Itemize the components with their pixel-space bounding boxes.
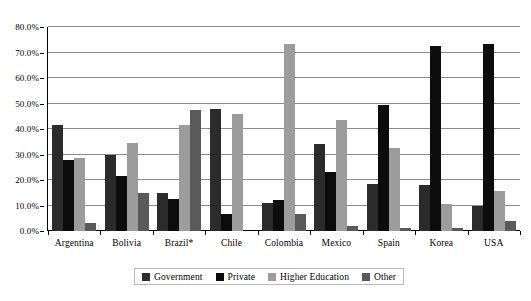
y-tick-label: 40.0% bbox=[15, 125, 39, 134]
bar bbox=[419, 185, 430, 231]
bar bbox=[284, 44, 295, 231]
bar-chart: 0.0%10.0%20.0%30.0%40.0%50.0%60.0%70.0%8… bbox=[0, 0, 531, 301]
bar-group bbox=[205, 27, 257, 231]
y-tick-label: 0.0% bbox=[20, 227, 39, 236]
x-axis-label: Spain bbox=[363, 236, 415, 252]
bar bbox=[105, 155, 116, 232]
bar bbox=[138, 193, 149, 231]
bar bbox=[430, 46, 441, 231]
y-axis: 0.0%10.0%20.0%30.0%40.0%50.0%60.0%70.0%8… bbox=[0, 27, 44, 231]
bar bbox=[472, 206, 483, 232]
y-tick-label: 30.0% bbox=[15, 150, 39, 159]
y-tick-label: 20.0% bbox=[15, 176, 39, 185]
x-tick-mark bbox=[468, 231, 469, 235]
y-tick-mark bbox=[40, 53, 44, 54]
bar bbox=[483, 44, 494, 231]
legend-swatch-icon bbox=[142, 273, 150, 281]
y-tick-label: 70.0% bbox=[15, 48, 39, 57]
legend-item: Higher Education bbox=[268, 272, 349, 282]
bar-group bbox=[153, 27, 205, 231]
bar bbox=[273, 200, 284, 231]
x-tick-mark bbox=[153, 231, 154, 235]
x-tick-mark bbox=[48, 231, 49, 235]
bar bbox=[221, 214, 232, 231]
y-tick-label: 60.0% bbox=[15, 74, 39, 83]
bar bbox=[314, 144, 325, 231]
legend-label: Private bbox=[228, 272, 256, 282]
legend-item: Other bbox=[362, 272, 396, 282]
bar bbox=[74, 158, 85, 231]
x-tick-mark bbox=[520, 231, 521, 235]
x-axis-label: Bolivia bbox=[100, 236, 152, 252]
y-tick-label: 50.0% bbox=[15, 99, 39, 108]
y-tick-label: 80.0% bbox=[15, 23, 39, 32]
legend-swatch-icon bbox=[216, 273, 224, 281]
legend-label: Other bbox=[374, 272, 396, 282]
bar-group bbox=[468, 27, 520, 231]
bar bbox=[262, 203, 273, 231]
legend-item: Government bbox=[142, 272, 203, 282]
bar bbox=[52, 125, 63, 231]
y-tick-mark bbox=[40, 129, 44, 130]
x-axis-labels: ArgentinaBoliviaBrazil*ChileColombiaMexi… bbox=[48, 236, 520, 252]
x-axis-label: Brazil* bbox=[153, 236, 205, 252]
bar bbox=[367, 184, 378, 231]
y-tick-mark bbox=[40, 78, 44, 79]
bar bbox=[441, 204, 452, 231]
bar bbox=[179, 125, 190, 231]
bar bbox=[336, 120, 347, 231]
bar bbox=[127, 143, 138, 231]
bars-layer bbox=[48, 27, 520, 231]
y-tick-label: 10.0% bbox=[15, 201, 39, 210]
bar-group bbox=[100, 27, 152, 231]
chart-legend: GovernmentPrivateHigher EducationOther bbox=[134, 268, 404, 285]
y-tick-mark bbox=[40, 27, 44, 28]
legend-label: Government bbox=[154, 272, 203, 282]
bar bbox=[295, 214, 306, 231]
x-axis-label: Argentina bbox=[48, 236, 100, 252]
bar bbox=[190, 110, 201, 231]
x-axis-label: Chile bbox=[205, 236, 257, 252]
x-tick-mark bbox=[310, 231, 311, 235]
legend-swatch-icon bbox=[362, 273, 370, 281]
bar bbox=[157, 193, 168, 231]
bar bbox=[325, 172, 336, 231]
bar bbox=[210, 109, 221, 231]
x-tick-mark bbox=[415, 231, 416, 235]
legend-swatch-icon bbox=[268, 273, 276, 281]
legend-label: Higher Education bbox=[280, 272, 349, 282]
bar bbox=[116, 176, 127, 231]
x-axis-label: USA bbox=[468, 236, 520, 252]
x-tick-mark bbox=[100, 231, 101, 235]
bar-group bbox=[363, 27, 415, 231]
bar bbox=[85, 223, 96, 231]
y-tick-mark bbox=[40, 206, 44, 207]
x-axis-label: Korea bbox=[415, 236, 467, 252]
y-tick-mark bbox=[40, 104, 44, 105]
bar bbox=[232, 114, 243, 231]
legend-item: Private bbox=[216, 272, 256, 282]
bar bbox=[63, 160, 74, 231]
bar bbox=[505, 221, 516, 231]
bar-group bbox=[415, 27, 467, 231]
bar-group bbox=[48, 27, 100, 231]
y-tick-mark bbox=[40, 231, 44, 232]
y-tick-mark bbox=[40, 180, 44, 181]
x-axis-label: Colombia bbox=[258, 236, 310, 252]
x-axis-label: Mexico bbox=[310, 236, 362, 252]
bar bbox=[494, 191, 505, 231]
y-tick-mark bbox=[40, 155, 44, 156]
x-tick-mark bbox=[205, 231, 206, 235]
bar-group bbox=[258, 27, 310, 231]
x-tick-mark bbox=[363, 231, 364, 235]
bar bbox=[389, 148, 400, 231]
bar bbox=[378, 105, 389, 231]
x-tick-mark bbox=[258, 231, 259, 235]
bar bbox=[168, 199, 179, 231]
bar-group bbox=[310, 27, 362, 231]
